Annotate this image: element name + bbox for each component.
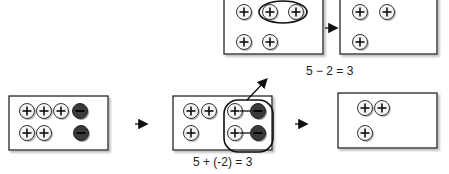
bottom-start-box [9,96,108,150]
top-before-box [224,0,323,54]
bottom-zero-pair-box [173,96,273,152]
integer-counter-diagram [0,0,449,174]
top-after-box [340,0,437,54]
top-equation: 5 − 2 = 3 [306,64,353,78]
bottom-equation: 5 + (-2) = 3 [193,155,252,169]
bottom-result-box [338,93,437,148]
